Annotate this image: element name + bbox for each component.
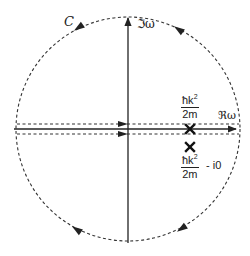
imaginary-axis-label: ℑω: [137, 18, 155, 30]
pole-2-exponent: 2: [194, 153, 198, 160]
contour-label: C: [64, 15, 74, 28]
pole-1-numerator: ħk: [182, 94, 194, 106]
contour-graphic: [0, 0, 250, 256]
pole-2-denominator: 2m: [181, 168, 199, 180]
arc-arrow-lower-left-icon: [70, 223, 83, 235]
arc-arrow-upper-right-icon: [172, 23, 185, 35]
pole-1-exponent: 2: [194, 93, 198, 100]
pole-1-denominator: 2m: [181, 108, 199, 120]
contour-diagram: C ℑω ℜω ħk2 2m ħk2 2m - i0: [0, 0, 250, 256]
pole-2-suffix: - i0: [206, 159, 221, 171]
arc-arrow-lower-right-icon: [175, 223, 188, 235]
real-axis-label: ℜω: [218, 110, 236, 121]
lower-line-arrow-icon: [118, 131, 128, 137]
upper-line-arrow-icon: [118, 121, 128, 127]
pole-below-axis-icon: [186, 143, 194, 151]
pole-2-numerator: ħk: [182, 154, 194, 166]
pole-below-axis-label: ħk2 2m: [181, 153, 199, 180]
pole-on-axis-label: ħk2 2m: [181, 93, 199, 120]
